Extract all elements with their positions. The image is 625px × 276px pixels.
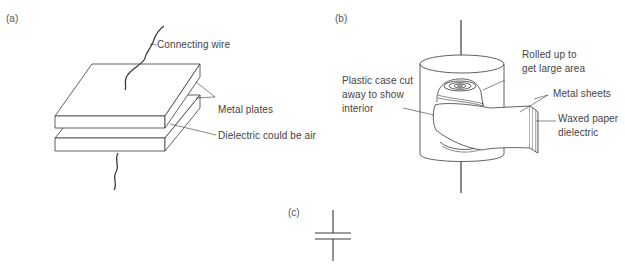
label-rolled-line2: get large area <box>522 63 585 75</box>
bottom-connecting-wire <box>114 153 118 190</box>
capacitor-symbol <box>315 210 351 261</box>
label-case-line1: Plastic case cut <box>342 75 413 87</box>
label-case-line2: away to show <box>342 89 404 101</box>
label-case-line3: interior <box>342 103 373 115</box>
label-metal-sheets: Metal sheets <box>553 88 611 100</box>
paper-roll <box>433 79 538 153</box>
label-connecting-wire: Connecting wire <box>157 39 230 51</box>
label-waxed-line1: Waxed paper <box>558 113 618 125</box>
label-rolled-line1: Rolled up to <box>522 49 577 61</box>
rolled-capacitor <box>403 20 556 193</box>
case-top <box>420 55 504 73</box>
label-dielectric: Dielectric could be air <box>218 130 316 142</box>
label-waxed-line2: dielectric <box>558 127 598 139</box>
label-metal-plates: Metal plates <box>218 104 273 116</box>
